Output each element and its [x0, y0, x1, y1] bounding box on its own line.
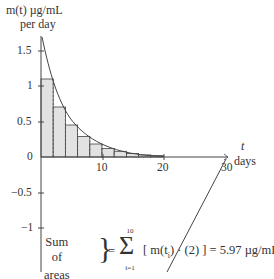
y-tick-1: 1 — [27, 80, 33, 92]
y-tick-neg1: −1 — [21, 222, 33, 234]
y-tick-neg0.5: −0.5 — [11, 187, 32, 199]
y-axis-label-line1: m(t) µg/mL — [6, 4, 63, 16]
x-tick-20: 20 — [157, 162, 169, 174]
x-axis-unit: days — [234, 155, 256, 167]
y-tick-0: 0 — [27, 151, 33, 163]
y-tick-0.5: 0.5 — [17, 116, 31, 128]
y-axis-label-line2: per day — [20, 18, 56, 30]
x-tick-30: 30 — [221, 162, 233, 174]
x-tick-10: 10 — [96, 162, 108, 174]
x-axis-var: t — [241, 140, 244, 152]
chart-canvas — [0, 0, 274, 279]
y-tick-1.5: 1.5 — [17, 45, 31, 57]
sigma: Σ — [119, 233, 134, 259]
formula-left: Sum of areas — [44, 235, 70, 279]
